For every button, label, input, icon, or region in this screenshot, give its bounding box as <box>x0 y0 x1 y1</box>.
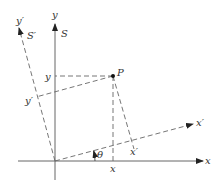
x-axis-label: x <box>205 155 211 166</box>
frame-s-prime-label: S′ <box>27 30 37 41</box>
angle-arc <box>94 151 95 161</box>
y-projection-label: y <box>44 71 51 82</box>
frame-s-label: S <box>61 28 68 39</box>
x-projection-label: x <box>110 163 116 174</box>
diagram-svg: y S y′ S′ P y y′ θ x x′ x′ x <box>0 0 220 184</box>
x-prime-axis-label: x′ <box>196 117 205 128</box>
y-prime-projection-label: y′ <box>24 95 34 106</box>
projection-p-to-x-prime <box>113 76 134 149</box>
x-prime-axis <box>55 124 193 161</box>
point-p <box>111 74 115 78</box>
x-prime-projection-label: x′ <box>130 146 139 157</box>
theta-label: θ <box>97 149 103 160</box>
y-prime-axis-label: y′ <box>15 15 25 26</box>
coordinate-rotation-diagram: y S y′ S′ P y y′ θ x x′ x′ x <box>0 0 220 184</box>
y-axis-label: y <box>51 9 58 20</box>
point-p-label: P <box>116 67 124 78</box>
